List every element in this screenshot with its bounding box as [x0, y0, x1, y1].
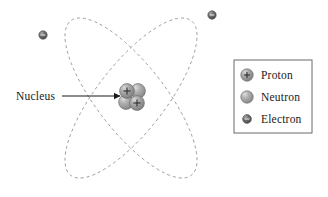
electron-symbol-icon [243, 115, 252, 124]
nucleus-callout: Nucleus [16, 90, 120, 102]
nucleus-label: Nucleus [16, 90, 55, 102]
electron-particle [39, 31, 47, 39]
legend-label-electron: Electron [261, 113, 302, 125]
legend-label-neutron: Neutron [261, 91, 300, 103]
legend-item-proton: Proton [241, 69, 293, 81]
atom-diagram-canvas: Nucleus Proton Neutron [0, 0, 328, 197]
electron-particle [208, 11, 216, 19]
neutron-symbol-icon [241, 91, 253, 103]
proton-particle [120, 84, 135, 99]
legend: Proton Neutron Electron [234, 60, 312, 133]
legend-item-neutron: Neutron [241, 91, 300, 103]
proton-symbol-icon [241, 69, 253, 81]
nucleus-group [119, 84, 146, 111]
proton-particle [130, 96, 145, 111]
legend-label-proton: Proton [261, 69, 293, 81]
atom-diagram: Nucleus Proton Neutron [0, 0, 328, 197]
